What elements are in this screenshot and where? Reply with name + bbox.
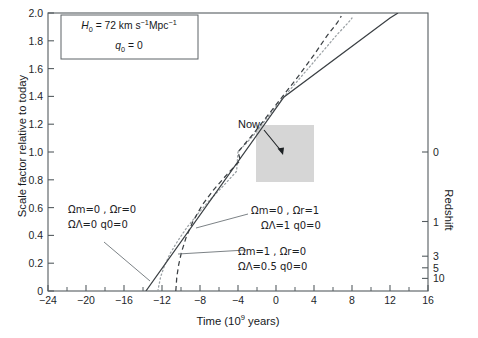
svg-text:0: 0: [273, 294, 279, 306]
x-axis-ticks: [48, 285, 428, 291]
svg-text:12: 12: [384, 294, 396, 306]
y-axis-tick-labels: 0 0.2 0.4 0.6 0.8 1.0 1.2 1.4 1.6 1.8 2.…: [28, 7, 43, 297]
y-axis-title: Scale factor relative to today: [16, 66, 28, 226]
annotation-matter-lambda-line2: ΩΛ=0.5 q0=0: [238, 260, 307, 275]
annotation-matter-lambda-line1: Ωm=1 , Ωr=0: [238, 245, 307, 260]
annotation-radiation-lambda-line1: Ωm=0 , Ωr=1: [251, 204, 321, 219]
svg-text:1.2: 1.2: [28, 118, 43, 130]
figure-root: 0 0.2 0.4 0.6 0.8 1.0 1.2 1.4 1.6 1.8 2.…: [0, 0, 478, 338]
annotation-matter-lambda: Ωm=1 , Ωr=0 ΩΛ=0.5 q0=0: [238, 245, 307, 274]
svg-text:1.6: 1.6: [28, 63, 43, 75]
svg-text:0.6: 0.6: [28, 202, 43, 214]
annotation-empty-universe: Ωm=0 , Ωr=0 ΩΛ=0 q0=0: [68, 203, 136, 232]
svg-text:8: 8: [349, 294, 355, 306]
now-label: Now: [238, 118, 260, 130]
x-axis-tick-labels: −24 −20 −16 −12 −8 −4 0 4 8 12 16: [39, 294, 434, 306]
svg-text:−12: −12: [153, 294, 171, 306]
x-axis-title: Time (109 years): [148, 313, 328, 327]
svg-text:−24: −24: [39, 294, 57, 306]
svg-text:4: 4: [311, 294, 317, 306]
svg-text:0.4: 0.4: [28, 229, 43, 241]
right-axis-title: Redshift: [443, 165, 455, 255]
deceleration-parameter-line: q0 = 0: [63, 37, 195, 57]
annotation-empty-universe-line2: ΩΛ=0 q0=0: [68, 218, 136, 233]
svg-text:−20: −20: [77, 294, 95, 306]
svg-text:3: 3: [433, 250, 439, 262]
svg-text:−8: −8: [194, 294, 206, 306]
right-axis-ticks: [422, 152, 428, 278]
leader-line-matter-lambda: [178, 250, 246, 254]
svg-text:1.8: 1.8: [28, 35, 43, 47]
svg-text:0.2: 0.2: [28, 257, 43, 269]
y-axis-ticks: [48, 13, 54, 291]
annotation-empty-universe-line1: Ωm=0 , Ωr=0: [68, 203, 136, 218]
svg-text:16: 16: [422, 294, 434, 306]
svg-text:2.0: 2.0: [28, 7, 43, 19]
svg-text:0.8: 0.8: [28, 174, 43, 186]
leader-line-radiation-lambda: [196, 214, 248, 228]
svg-text:1.0: 1.0: [28, 146, 43, 158]
now-shaded-region: [256, 125, 314, 182]
hubble-constant-line: H0 = 72 km s−1Mpc−1: [63, 17, 195, 37]
annotation-radiation-lambda: Ωm=0 , Ωr=1 ΩΛ=1 q0=0: [251, 204, 321, 233]
svg-text:0: 0: [433, 146, 439, 158]
svg-text:−16: −16: [115, 294, 133, 306]
parameter-box-text: H0 = 72 km s−1Mpc−1 q0 = 0: [63, 17, 195, 57]
svg-text:1: 1: [433, 216, 439, 228]
annotation-radiation-lambda-line2: ΩΛ=1 q0=0: [251, 219, 321, 234]
svg-text:1.4: 1.4: [28, 90, 43, 102]
svg-text:−4: −4: [232, 294, 244, 306]
svg-text:10: 10: [433, 272, 445, 284]
leader-line-empty-universe: [104, 242, 150, 281]
